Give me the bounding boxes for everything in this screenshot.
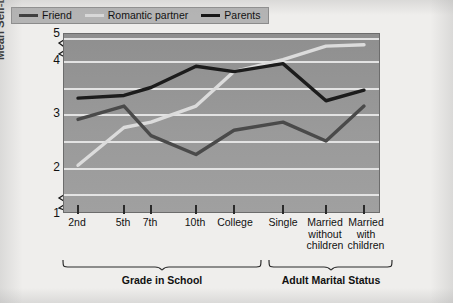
x-tickmark bbox=[123, 205, 125, 214]
x-tickmark bbox=[150, 205, 152, 214]
x-tick-label-college: College bbox=[217, 217, 253, 229]
x-tick-label-married-with-children: Married with children bbox=[343, 217, 389, 252]
legend-label-friend: Friend bbox=[42, 10, 72, 21]
bracket-label-adult-marital-status: Adult Marital Status bbox=[282, 274, 381, 286]
legend-item-friend: Friend bbox=[19, 10, 72, 21]
y-axis-title: Mean Self-Disclosure Score bbox=[0, 0, 6, 60]
chart-figure: Mean Self-Disclosure Score 5 4 3 2 1 Fri… bbox=[0, 0, 453, 303]
x-tickmark bbox=[363, 205, 365, 214]
x-tickmark bbox=[195, 205, 197, 214]
legend-label-romantic-partner: Romantic partner bbox=[108, 10, 189, 21]
x-tick-label-10th: 10th bbox=[185, 217, 205, 229]
chart-legend: Friend Romantic partner Parents bbox=[11, 7, 269, 24]
x-tickmark bbox=[282, 205, 284, 214]
y-tick-3: 3 bbox=[38, 107, 60, 119]
legend-item-parents: Parents bbox=[201, 10, 260, 21]
x-tickmark bbox=[325, 205, 327, 214]
plot-area bbox=[63, 33, 380, 213]
x-tick-label-married-without-children: Married without children bbox=[302, 217, 348, 252]
x-tickmark bbox=[233, 205, 235, 214]
y-tick-2: 2 bbox=[38, 161, 60, 173]
x-tick-label-5th: 5th bbox=[116, 217, 131, 229]
x-tick-label-2nd: 2nd bbox=[68, 217, 86, 229]
bracket-adult-marital-status-icon bbox=[268, 259, 393, 271]
legend-swatch-romantic-partner bbox=[85, 14, 104, 18]
bracket-label-grade-in-school: Grade in School bbox=[122, 274, 203, 286]
data-series-group bbox=[64, 34, 381, 214]
x-tick-label-7th: 7th bbox=[143, 217, 158, 229]
series-line-romantic-partner bbox=[78, 45, 364, 166]
legend-swatch-parents bbox=[201, 14, 220, 18]
x-tick-label-single: Single bbox=[268, 217, 297, 229]
bracket-grade-in-school-icon bbox=[62, 259, 262, 271]
x-tickmark bbox=[77, 205, 79, 214]
legend-swatch-friend bbox=[19, 14, 38, 18]
legend-item-romantic-partner: Romantic partner bbox=[85, 10, 189, 21]
legend-label-parents: Parents bbox=[224, 10, 260, 21]
